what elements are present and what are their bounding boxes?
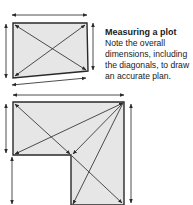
dimension-arrow-bottom bbox=[12, 78, 86, 85]
caption-body: Note the overall dimensions, including t… bbox=[105, 38, 193, 82]
caption: Measuring a plot Note the overall dimens… bbox=[105, 27, 193, 82]
caption-title: Measuring a plot bbox=[105, 27, 193, 38]
rectangular-plot bbox=[6, 15, 93, 85]
l-shaped-plot bbox=[6, 95, 131, 205]
